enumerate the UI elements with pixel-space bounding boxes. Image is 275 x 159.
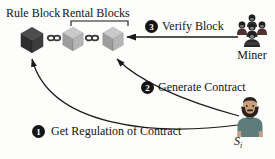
step-1-number: 1 xyxy=(36,127,41,137)
rental-block-cube-icon xyxy=(63,27,84,51)
miner-group-icon xyxy=(233,11,271,49)
rental-blocks-bracket xyxy=(71,21,128,26)
step-3-label: Verify Block xyxy=(162,20,224,33)
step-2-badge: 2 xyxy=(141,81,154,94)
step-2-number: 2 xyxy=(145,83,150,93)
person-icon xyxy=(236,95,264,137)
rental-blocks-label: Rental Blocks xyxy=(62,7,130,20)
step-2-label: Generate Contract xyxy=(158,81,246,94)
miner-label: Miner xyxy=(233,49,271,62)
workflow-diagram: Rule Block Rental Blocks 3 Verify Block … xyxy=(0,0,275,159)
chain-link-icon xyxy=(86,36,98,41)
step-1-label: Get Regulation of Contract xyxy=(51,125,181,138)
step-1-badge: 1 xyxy=(32,125,45,138)
rental-block-cube-icon xyxy=(103,27,124,51)
rule-block-label: Rule Block xyxy=(6,7,60,20)
step-3-number: 3 xyxy=(149,22,154,32)
chain-link-icon xyxy=(48,36,60,41)
subscriber-label: Si xyxy=(234,135,242,152)
step-3-badge: 3 xyxy=(145,20,158,33)
subscriber-subscript: i xyxy=(240,141,242,150)
rule-block-cube-icon xyxy=(21,27,43,53)
